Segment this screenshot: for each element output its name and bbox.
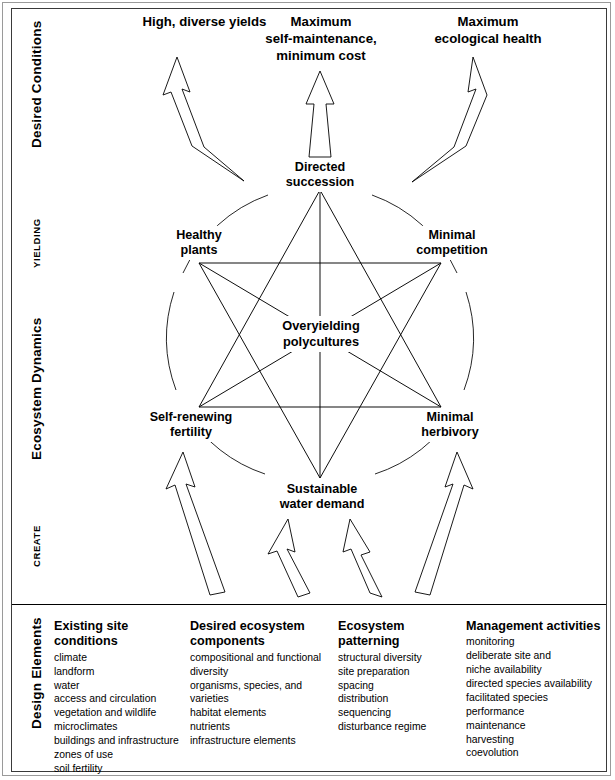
design-column-management-activities: Management activities monitoring deliber…	[466, 619, 602, 760]
design-column-list: monitoring deliberate site and niche ava…	[466, 635, 602, 760]
node-line: Minimal	[421, 410, 478, 425]
design-column-heading: Desired ecosystem components	[190, 619, 338, 650]
band-label-desired-conditions: Desired Conditions	[30, 21, 44, 148]
node-line: plants	[176, 243, 222, 258]
node-self-renewing-fertility: Self-renewing fertility	[147, 409, 236, 442]
arrow-to-maximum-self-maintenance	[306, 71, 334, 157]
design-column-heading: Existing site conditions	[54, 619, 194, 650]
arrow-patterning-to-water	[343, 519, 382, 597]
list-item: compositional and functional diversity	[190, 651, 338, 679]
list-item: nutrients	[190, 720, 338, 734]
design-column-ecosystem-patterning: Ecosystem patterning structural diversit…	[338, 619, 466, 734]
list-item: distribution	[338, 692, 466, 706]
design-column-list: compositional and functional diversity o…	[190, 651, 338, 748]
list-item: vegetation and wildlife	[54, 706, 194, 720]
list-item: habitat elements	[190, 706, 338, 720]
list-item: soil fertility	[54, 762, 194, 776]
node-directed-succession: Directed succession	[283, 159, 358, 192]
list-item: access and circulation	[54, 692, 194, 706]
arrow-to-high-diverse-yields	[163, 57, 244, 181]
node-sustainable-water-demand: Sustainable water demand	[277, 481, 368, 514]
node-line: Self-renewing	[150, 410, 233, 425]
node-minimal-herbivory: Minimal herbivory	[418, 409, 481, 442]
list-item: site preparation	[338, 665, 466, 679]
design-column-heading: Management activities	[466, 619, 602, 634]
band-label-yielding: YIELDING	[32, 218, 42, 268]
arrow-desired-to-water	[268, 519, 310, 597]
list-item: directed species availability	[466, 677, 602, 691]
node-overyielding-polycultures: Overyielding polycultures	[279, 317, 363, 350]
design-column-list: structural diversity site preparation sp…	[338, 651, 466, 734]
list-item: climate	[54, 651, 194, 665]
design-column-desired-ecosystem-components: Desired ecosystem components composition…	[190, 619, 338, 748]
list-item: buildings and infrastructure	[54, 734, 194, 748]
arrow-management-to-herbivory	[415, 452, 473, 595]
list-item: landform	[54, 665, 194, 679]
node-line: polycultures	[282, 334, 360, 350]
list-item: coevolution	[466, 746, 602, 760]
goal-line: minimum cost	[256, 48, 386, 65]
node-line: water demand	[280, 497, 365, 512]
list-item: infrastructure elements	[190, 734, 338, 748]
list-item: zones of use	[54, 748, 194, 762]
node-minimal-competition: Minimal competition	[413, 227, 490, 260]
band-label-create: CREATE	[32, 525, 42, 567]
goal-maximum-self-maintenance: Maximum self-maintenance, minimum cost	[256, 14, 386, 65]
goal-line: Maximum	[408, 14, 568, 31]
node-line: Directed	[286, 160, 355, 175]
band-label-design-elements: Design Elements	[30, 617, 44, 729]
goal-line: Maximum	[256, 14, 386, 31]
list-item: deliberate site and niche availability	[466, 649, 602, 677]
goal-maximum-ecological-health: Maximum ecological health	[408, 14, 568, 48]
list-item: water	[54, 679, 194, 693]
list-item: microclimates	[54, 720, 194, 734]
node-healthy-plants: Healthy plants	[173, 227, 225, 260]
node-line: competition	[416, 243, 487, 258]
design-column-heading: Ecosystem patterning	[338, 619, 466, 650]
node-line: Sustainable	[280, 482, 365, 497]
arrow-existing-to-fertility	[166, 452, 225, 595]
goal-line: self-maintenance,	[256, 31, 386, 48]
design-column-list: climate landform water access and circul…	[54, 651, 194, 776]
list-item: monitoring	[466, 635, 602, 649]
list-item: organisms, species, and varieties	[190, 679, 338, 707]
diagram-page: Desired Conditions YIELDING Ecosystem Dy…	[0, 0, 615, 780]
list-item: harvesting	[466, 733, 602, 747]
node-line: succession	[286, 175, 355, 190]
list-item: disturbance regime	[338, 720, 466, 734]
list-item: maintenance	[466, 719, 602, 733]
node-line: herbivory	[421, 425, 478, 440]
band-label-ecosystem-dynamics: Ecosystem Dynamics	[30, 318, 44, 460]
list-item: spacing	[338, 679, 466, 693]
arrow-to-maximum-ecological-health	[412, 57, 487, 182]
list-item: structural diversity	[338, 651, 466, 665]
list-item: facilitated species performance	[466, 691, 602, 719]
design-column-existing-site-conditions: Existing site conditions climate landfor…	[54, 619, 194, 776]
list-item: sequencing	[338, 706, 466, 720]
node-line: fertility	[150, 425, 233, 440]
node-line: Minimal	[416, 228, 487, 243]
node-line: Healthy	[176, 228, 222, 243]
goal-line: ecological health	[408, 31, 568, 48]
node-line: Overyielding	[282, 318, 360, 334]
